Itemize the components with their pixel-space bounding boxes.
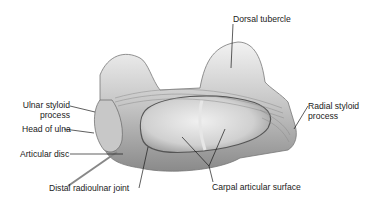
label-head-of-ulna: Head of ulna [22,124,71,134]
label-ulnar-styloid-line1: Ulnar styloid [4,100,70,110]
label-articular-disc: Articular disc [20,149,69,159]
label-radial-styloid-process: Radial styloid process [308,101,359,121]
label-radial-styloid-line1: Radial styloid [308,101,359,111]
label-ulnar-styloid-line2: process [4,110,70,120]
anatomy-figure: Dorsal tubercle Ulnar styloid process He… [0,0,372,207]
label-radial-styloid-line2: process [308,111,359,121]
label-ulnar-styloid-process: Ulnar styloid process [4,100,70,120]
label-dorsal-tubercle: Dorsal tubercle [233,14,291,24]
label-distal-radioulnar-joint: Distal radioulnar joint [49,183,129,193]
label-carpal-articular-surface: Carpal articular surface [212,182,301,192]
styloid-pin [68,152,117,186]
